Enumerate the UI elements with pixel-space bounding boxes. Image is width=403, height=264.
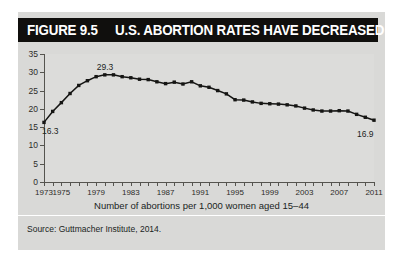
series-marker: [155, 80, 158, 83]
series-marker: [268, 102, 271, 105]
series-marker: [346, 109, 349, 112]
series-marker: [207, 86, 210, 89]
series-marker: [233, 98, 236, 101]
series-marker: [216, 89, 219, 92]
series-marker: [320, 109, 323, 112]
abortion-rate-line-series: [18, 42, 385, 212]
figure-title: U.S. ABORTION RATES HAVE DECREASED: [115, 22, 384, 38]
series-line: [44, 75, 374, 123]
series-marker: [225, 92, 228, 95]
series-marker: [294, 104, 297, 107]
series-marker: [173, 80, 176, 83]
series-marker: [68, 92, 71, 95]
series-marker: [60, 101, 63, 104]
series-marker: [303, 106, 306, 109]
series-marker: [312, 108, 315, 111]
series-marker: [103, 73, 106, 76]
series-marker: [251, 100, 254, 103]
series-marker: [138, 78, 141, 81]
figure-card: FIGURE 9.5 U.S. ABORTION RATES HAVE DECR…: [18, 12, 385, 250]
series-marker: [190, 80, 193, 83]
series-marker: [77, 84, 80, 87]
series-marker: [51, 110, 54, 113]
series-marker: [147, 78, 150, 81]
series-marker: [129, 76, 132, 79]
series-marker: [86, 79, 89, 82]
series-marker: [199, 84, 202, 87]
series-marker: [338, 109, 341, 112]
series-marker: [120, 75, 123, 78]
series-marker: [285, 103, 288, 106]
data-label: 16.9: [357, 129, 374, 139]
series-marker: [355, 113, 358, 116]
series-marker: [259, 102, 262, 105]
series-marker: [94, 75, 97, 78]
series-marker: [329, 109, 332, 112]
x-axis-caption: Number of abortions per 1,000 women aged…: [18, 200, 385, 211]
series-marker: [181, 82, 184, 85]
figure-number: FIGURE 9.5: [27, 22, 98, 38]
footer-divider: [18, 215, 385, 216]
series-marker: [277, 102, 280, 105]
series-marker: [164, 82, 167, 85]
data-label: 16.3: [42, 126, 59, 136]
series-marker: [372, 118, 375, 121]
series-marker: [242, 98, 245, 101]
chart-plot-region: 05101520253035 1973197519791983198719911…: [18, 42, 385, 212]
series-marker: [42, 121, 45, 124]
data-label: 29.3: [97, 62, 114, 72]
source-note: Source: Guttmacher Institute, 2014.: [27, 224, 161, 234]
figure-title-bar: FIGURE 9.5 U.S. ABORTION RATES HAVE DECR…: [18, 18, 378, 42]
series-marker: [364, 116, 367, 119]
series-marker: [112, 73, 115, 76]
